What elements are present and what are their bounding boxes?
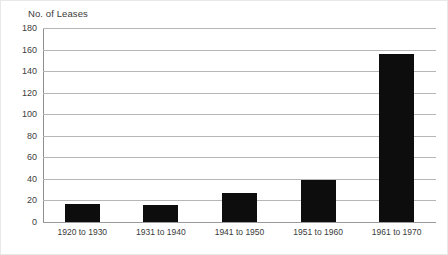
x-tick-label: 1920 to 1930 — [43, 227, 122, 237]
bar-slot — [200, 28, 279, 222]
x-tick-label: 1961 to 1970 — [357, 227, 436, 237]
y-tick-label-20: 20 — [27, 196, 37, 205]
bar-slot — [122, 28, 201, 222]
bar-slot — [279, 28, 358, 222]
y-tick-label-140: 140 — [22, 67, 37, 76]
y-tick-label-120: 120 — [22, 88, 37, 97]
x-tick-label: 1931 to 1940 — [122, 227, 201, 237]
y-axis-tick-labels: 180160140120100806040200 — [1, 28, 37, 222]
bar[interactable] — [65, 204, 100, 222]
bar[interactable] — [143, 205, 178, 222]
bar-chart-figure: No. of Leases 180160140120100806040200 1… — [0, 0, 448, 255]
y-tick-label-100: 100 — [22, 110, 37, 119]
y-tick-label-40: 40 — [27, 174, 37, 183]
bar-slot — [357, 28, 436, 222]
bar[interactable] — [301, 180, 336, 222]
plot-area — [43, 28, 436, 222]
y-tick-label-180: 180 — [22, 24, 37, 33]
chart-title: No. of Leases — [28, 8, 88, 19]
y-tick-label-80: 80 — [27, 131, 37, 140]
x-tick-label: 1941 to 1950 — [200, 227, 279, 237]
bar[interactable] — [379, 54, 414, 222]
y-tick-label-0: 0 — [32, 218, 37, 227]
bar[interactable] — [222, 193, 257, 222]
y-tick-label-160: 160 — [22, 45, 37, 54]
y-tick-label-60: 60 — [27, 153, 37, 162]
x-tick-label: 1951 to 1960 — [279, 227, 358, 237]
bar-slot — [43, 28, 122, 222]
gridline-0 — [43, 222, 436, 223]
x-axis-tick-labels: 1920 to 19301931 to 19401941 to 19501951… — [43, 227, 436, 247]
